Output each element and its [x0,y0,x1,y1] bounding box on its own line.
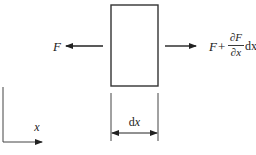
right-force-plus: + [218,39,225,54]
right-force-numerator: ∂F [230,31,242,43]
right-force-suffix: dx [245,39,256,53]
right-force-label-f: F [208,39,218,54]
left-force-label: F [52,39,62,54]
dimension-label: dx [129,115,141,129]
coordinate-axis: x [3,87,42,142]
free-body-diagram: F F + ∂F ∂x dx dx x [0,0,256,155]
element-rectangle [111,5,158,86]
axis-x-label: x [33,120,40,134]
right-force: F + ∂F ∂x dx [165,31,256,58]
left-force: F [52,39,103,54]
right-force-denominator: ∂x [231,46,241,58]
dimension-dx: dx [111,93,158,141]
